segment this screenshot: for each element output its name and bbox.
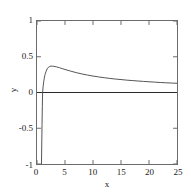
x-tick-label: 5 [49, 168, 79, 177]
data-curve [41, 66, 177, 164]
y-tick-label: 0.5 [3, 52, 33, 61]
y-tick-label: -0.5 [3, 124, 33, 133]
chart-figure: 10.50-0.5-1 0510152025 x y [0, 0, 191, 193]
x-tick-label: 0 [21, 168, 51, 177]
x-tick-label: 15 [106, 168, 136, 177]
plot-area [36, 20, 178, 165]
x-tick-label: 20 [135, 168, 165, 177]
y-axis-label: y [8, 76, 18, 104]
curve-svg [37, 21, 177, 164]
x-tick-label: 10 [78, 168, 108, 177]
x-axis-label: x [36, 179, 178, 189]
x-tick-label: 25 [163, 168, 191, 177]
y-tick-label: 1 [3, 16, 33, 25]
